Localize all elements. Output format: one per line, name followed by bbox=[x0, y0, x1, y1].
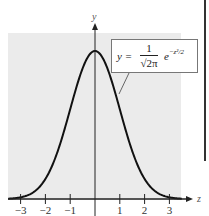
x-axis-label: z bbox=[196, 193, 201, 204]
x-tick-label: 3 bbox=[167, 204, 173, 216]
equation-fraction: 1 √2π bbox=[139, 42, 159, 70]
equation-denominator: √2π bbox=[139, 56, 159, 70]
page-rule bbox=[204, 0, 206, 161]
equation-lhs: y = bbox=[117, 50, 132, 62]
equation-label: y = 1 √2π e−z²/2 bbox=[111, 39, 198, 73]
y-axis-label: y bbox=[91, 11, 97, 22]
x-axis-arrow-icon bbox=[186, 196, 193, 202]
normal-curve-chart: z y −3−2−1123 bbox=[0, 0, 209, 216]
x-tick-label: −3 bbox=[15, 204, 27, 216]
equation-exponent: −z²/2 bbox=[169, 48, 184, 56]
x-tick-label: 2 bbox=[142, 204, 148, 216]
x-tick-label: 1 bbox=[117, 204, 123, 216]
equation-numerator: 1 bbox=[139, 42, 159, 55]
equation-exponential: e−z²/2 bbox=[164, 49, 184, 62]
y-axis-arrow-icon bbox=[92, 23, 98, 30]
x-tick-label: −2 bbox=[40, 204, 52, 216]
x-tick-label: −1 bbox=[64, 204, 76, 216]
